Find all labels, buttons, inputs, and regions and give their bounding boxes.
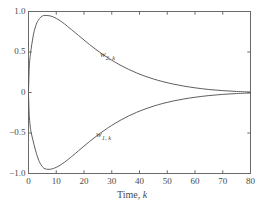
x-axis-title: Time, k [0,189,264,200]
y-tick-label: 1.0 [14,6,25,16]
x-tick-label: 50 [152,176,182,186]
series-line-2 [29,93,251,169]
y-tick-label: −0.5 [9,127,25,137]
x-tick-label: 60 [180,176,210,186]
figure: −1.0−0.500.51.001020304050607080Time, kw… [0,0,264,210]
x-tick-label: 40 [125,176,155,186]
x-tick-label: 80 [236,176,265,186]
x-tick-label: 70 [208,176,238,186]
x-tick-label: 20 [69,176,99,186]
x-tick-label: 0 [14,176,44,186]
plot-frame [29,12,251,174]
curve-label-2: w1, k [96,129,111,141]
y-tick-label: 0.5 [14,46,25,56]
x-axis-title-variable: k [143,189,147,200]
x-axis-title-text: Time, [117,189,143,200]
x-tick-label: 10 [41,176,71,186]
curve-label-subscript: 1, k [102,134,111,141]
x-tick-label: 30 [97,176,127,186]
curve-label-1: w2, k [100,49,115,61]
series-line-1 [29,15,251,92]
y-tick-label: 0 [21,87,26,97]
curve-label-subscript: 2, k [106,54,115,61]
